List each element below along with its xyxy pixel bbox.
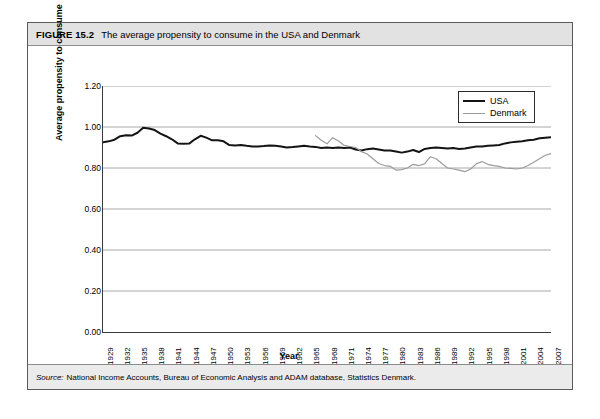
data-series [103, 128, 551, 172]
series-line-usa [103, 128, 551, 153]
y-tick-label: 1.20 [84, 81, 101, 91]
legend-item-usa: USA [463, 95, 527, 107]
y-axis-title: Average propensity to consume [54, 127, 64, 141]
y-tick-label: 0.40 [84, 245, 101, 255]
x-axis-title: Year [28, 351, 550, 361]
figure-container: FIGURE 15.2 The average propensity to co… [27, 22, 573, 390]
y-axis-tick-labels: 0.000.200.400.600.801.001.20 [68, 86, 101, 332]
legend-swatch-denmark-icon [463, 113, 485, 114]
y-tick-label: 0.60 [84, 204, 101, 214]
legend-item-denmark: Denmark [463, 107, 527, 119]
figure-title-text: The average propensity to consume in the… [101, 29, 360, 40]
figure-source-band: Source: National Income Accounts, Bureau… [28, 364, 572, 389]
chart-area: Average propensity to consume 0.000.200.… [28, 46, 572, 366]
source-text: National Income Accounts, Bureau of Econ… [67, 373, 417, 382]
x-tick-label: 2007 [554, 347, 563, 365]
legend-label-usa: USA [490, 96, 509, 106]
figure-number-label: FIGURE 15.2 [36, 29, 94, 40]
y-tick-label: 1.00 [84, 122, 101, 132]
chart-legend: USA Denmark [458, 91, 535, 123]
legend-swatch-usa-icon [463, 100, 485, 102]
y-tick-label: 0.20 [84, 286, 101, 296]
y-tick-label: 0.80 [84, 163, 101, 173]
plot-region: USA Denmark [102, 86, 551, 333]
y-tick-label: 0.00 [84, 327, 101, 337]
figure-title-band: FIGURE 15.2 The average propensity to co… [28, 23, 572, 46]
legend-label-denmark: Denmark [490, 108, 527, 118]
source-label: Source: [36, 373, 64, 382]
